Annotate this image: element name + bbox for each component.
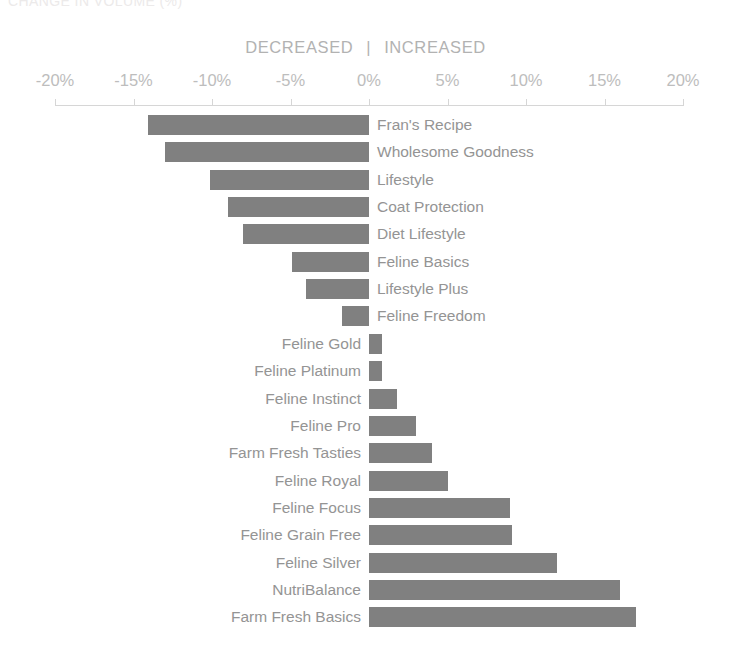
chart-row[interactable]: Feline Basics — [0, 249, 731, 276]
chart-row[interactable]: Feline Instinct — [0, 386, 731, 413]
chart-row[interactable]: Feline Royal — [0, 468, 731, 495]
bar[interactable] — [292, 252, 369, 272]
chart-row[interactable]: Feline Freedom — [0, 303, 731, 330]
category-label: Feline Basics — [377, 251, 469, 272]
bar[interactable] — [369, 498, 510, 518]
category-label: Coat Protection — [377, 196, 484, 217]
change-in-volume-chart: CHANGE IN VOLUME (%) DECREASED|INCREASED… — [0, 0, 731, 652]
x-axis-tick — [605, 99, 606, 106]
chart-row[interactable]: Feline Focus — [0, 495, 731, 522]
bar[interactable] — [369, 553, 557, 573]
chart-row[interactable]: Diet Lifestyle — [0, 221, 731, 248]
bar[interactable] — [210, 170, 369, 190]
chart-row[interactable]: Farm Fresh Basics — [0, 604, 731, 631]
category-label: Farm Fresh Basics — [231, 606, 361, 627]
bar[interactable] — [369, 607, 636, 627]
category-label: Wholesome Goodness — [377, 141, 534, 162]
category-label: Lifestyle Plus — [377, 278, 468, 299]
bar[interactable] — [306, 279, 369, 299]
chart-row[interactable]: Lifestyle Plus — [0, 276, 731, 303]
category-label: Farm Fresh Tasties — [229, 442, 361, 463]
bar[interactable] — [148, 115, 369, 135]
x-axis-label: 15% — [588, 71, 621, 90]
category-label: Feline Focus — [272, 497, 361, 518]
category-label: NutriBalance — [272, 579, 361, 600]
bar[interactable] — [342, 306, 369, 326]
chart-title: CHANGE IN VOLUME (%) — [8, 0, 182, 9]
x-axis-tick — [212, 99, 213, 106]
chart-row[interactable]: Feline Grain Free — [0, 522, 731, 549]
chart-row[interactable]: Wholesome Goodness — [0, 139, 731, 166]
chart-row[interactable]: Feline Platinum — [0, 358, 731, 385]
chart-row[interactable]: Lifestyle — [0, 167, 731, 194]
bar[interactable] — [369, 471, 448, 491]
x-axis-tick — [683, 99, 684, 106]
bar[interactable] — [369, 334, 382, 354]
increased-header-label: INCREASED — [384, 38, 486, 57]
bar[interactable] — [369, 580, 620, 600]
x-axis-tick — [134, 99, 135, 106]
x-axis-tick — [291, 99, 292, 106]
x-axis-label: -5% — [276, 71, 305, 90]
x-axis-label: 20% — [666, 71, 699, 90]
x-axis-label: 0% — [357, 71, 381, 90]
bar[interactable] — [228, 197, 369, 217]
category-label: Feline Platinum — [254, 360, 361, 381]
bar[interactable] — [243, 224, 369, 244]
category-label: Diet Lifestyle — [377, 223, 466, 244]
category-label: Feline Instinct — [265, 388, 361, 409]
x-axis-label: 10% — [509, 71, 542, 90]
direction-separator: | — [353, 38, 384, 57]
chart-row[interactable]: Farm Fresh Tasties — [0, 440, 731, 467]
bar[interactable] — [369, 361, 382, 381]
x-axis-tick — [526, 99, 527, 106]
direction-header: DECREASED|INCREASED — [0, 38, 731, 57]
x-axis-label: -15% — [114, 71, 153, 90]
bar[interactable] — [369, 416, 416, 436]
bar[interactable] — [369, 525, 512, 545]
chart-row[interactable]: NutriBalance — [0, 577, 731, 604]
x-axis-tick — [55, 99, 56, 106]
x-axis-label: -20% — [36, 71, 75, 90]
chart-row[interactable]: Feline Pro — [0, 413, 731, 440]
decreased-header-label: DECREASED — [245, 38, 353, 57]
bar[interactable] — [369, 443, 432, 463]
category-label: Feline Gold — [282, 333, 361, 354]
x-axis-label: -10% — [193, 71, 232, 90]
chart-row[interactable]: Coat Protection — [0, 194, 731, 221]
bars-plot-area: Fran's RecipeWholesome GoodnessLifestyle… — [0, 112, 731, 642]
category-label: Feline Silver — [276, 552, 361, 573]
x-axis-tick-labels: -20%-15%-10%-5%0%5%10%15%20% — [0, 71, 731, 93]
chart-row[interactable]: Feline Silver — [0, 550, 731, 577]
category-label: Lifestyle — [377, 169, 434, 190]
x-axis-label: 5% — [436, 71, 460, 90]
x-axis-tick — [448, 99, 449, 106]
category-label: Feline Grain Free — [240, 524, 361, 545]
bar[interactable] — [369, 389, 397, 409]
chart-row[interactable]: Fran's Recipe — [0, 112, 731, 139]
category-label: Feline Royal — [275, 470, 361, 491]
bar[interactable] — [165, 142, 369, 162]
x-axis-tick — [369, 99, 370, 106]
chart-row[interactable]: Feline Gold — [0, 331, 731, 358]
category-label: Fran's Recipe — [377, 114, 472, 135]
category-label: Feline Pro — [290, 415, 361, 436]
category-label: Feline Freedom — [377, 305, 486, 326]
